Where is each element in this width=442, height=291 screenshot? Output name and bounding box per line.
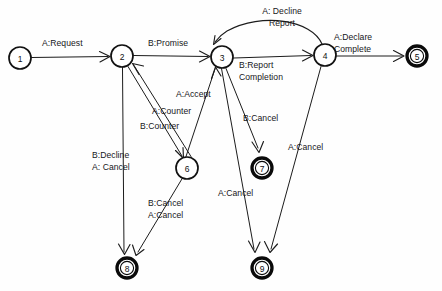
- node-2-label: 2: [120, 52, 125, 62]
- edge-label-a-counter: A:Counter: [152, 106, 191, 118]
- node-4[interactable]: 4: [314, 44, 336, 66]
- edge-label-b-decline-a-cancel: B:DeclineA: Cancel: [92, 150, 130, 173]
- state-transition-diagram: 1 2 3 4 5 6: [0, 0, 442, 291]
- edge-label-a-cancel-from-3: A:Cancel: [218, 188, 253, 200]
- node-6[interactable]: 6: [176, 157, 198, 179]
- edge-label-a-cancel-from-4: A:Cancel: [288, 142, 323, 154]
- node-3[interactable]: 3: [211, 46, 233, 68]
- edge-label-a-decline-report: A: DeclineReport: [243, 6, 321, 29]
- edge-line: [271, 67, 321, 250]
- edge-label-b-promise: B:Promise: [148, 38, 188, 50]
- edge-1-to-2: [32, 52, 111, 63]
- arrow-head-icon: [249, 241, 261, 253]
- edge-label-b-cancel-a-cancel: B:CancelA:Cancel: [148, 198, 183, 221]
- node-9[interactable]: 9: [252, 258, 272, 278]
- edge-label-a-accept: A:Accept: [176, 89, 211, 101]
- arrow-head-icon: [176, 148, 184, 159]
- edge-label-a-declare-complete: A:DeclareComplete: [334, 32, 372, 55]
- edge-line: [134, 56, 209, 57]
- node-1[interactable]: 1: [9, 47, 31, 69]
- edge-2-to-3: [134, 51, 211, 62]
- node-5-label: 5: [415, 52, 420, 62]
- node-5[interactable]: 5: [407, 46, 427, 66]
- node-9-label: 9: [260, 264, 265, 274]
- edge-line: [32, 57, 109, 58]
- edge-label-b-cancel: B:Cancel: [243, 113, 278, 125]
- node-4-label: 4: [323, 51, 328, 61]
- node-6-label: 6: [185, 164, 190, 174]
- edge-label-b-counter: B:Counter: [140, 121, 179, 133]
- node-7[interactable]: 7: [252, 158, 272, 178]
- edge-4-to-9: [265, 67, 322, 253]
- node-8[interactable]: 8: [117, 258, 137, 278]
- edge-6-to-3: [186, 67, 221, 157]
- arrow-head-icon: [133, 245, 145, 256]
- arrow-head-icon: [265, 242, 278, 253]
- node-7-label: 7: [260, 164, 265, 174]
- edge-line: [222, 69, 255, 250]
- node-2[interactable]: 2: [111, 45, 133, 67]
- edge-label-a-request: A:Request: [42, 38, 83, 50]
- node-8-label: 8: [125, 264, 130, 274]
- node-3-label: 3: [220, 53, 225, 63]
- node-1-label: 1: [18, 54, 23, 64]
- edge-line: [234, 56, 312, 59]
- edge-label-b-report-completion: B:ReportCompletion: [239, 60, 283, 83]
